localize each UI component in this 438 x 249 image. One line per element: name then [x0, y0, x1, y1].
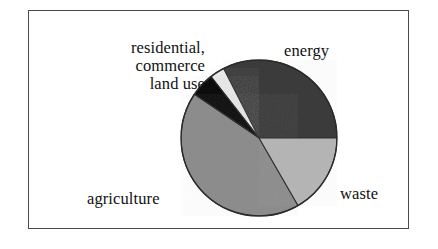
- pie-label-waste: waste: [340, 185, 378, 203]
- pie-label-agriculture: agriculture: [87, 190, 160, 208]
- figure-frame-border: residential, commerce land use energy wa…: [28, 10, 409, 229]
- pie-label-energy: energy: [284, 42, 329, 60]
- pie-chart-figure: residential, commerce land use energy wa…: [0, 0, 438, 249]
- pie-label-residential-commerce-land-use: residential, commerce land use: [85, 39, 205, 92]
